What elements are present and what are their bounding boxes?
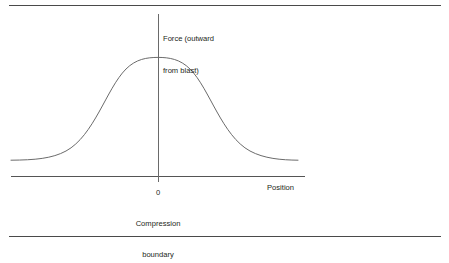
y-axis-label-line-1: Force (outward (163, 34, 214, 45)
y-axis-label: Force (outward from blast) (163, 13, 214, 98)
compression-boundary-line-1: Compression (108, 219, 208, 229)
x-axis-label: Position (267, 183, 294, 194)
compression-boundary-line-2: boundary (108, 250, 208, 260)
compression-boundary-annotation: Compression boundary (108, 199, 208, 263)
y-axis-label-line-2: from blast) (163, 66, 214, 77)
origin-tick-label: 0 (138, 188, 178, 199)
